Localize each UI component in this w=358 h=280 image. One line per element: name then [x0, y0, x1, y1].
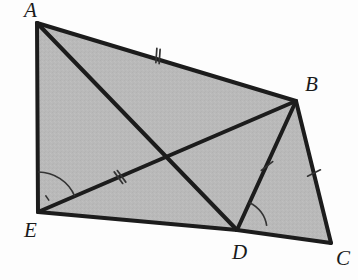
vertex-label-a: A [24, 0, 37, 21]
side-EA [37, 23, 38, 212]
vertex-label-c: C [336, 248, 350, 269]
geometry-canvas [0, 0, 358, 280]
vertex-label-b: B [305, 74, 318, 95]
vertex-label-d: D [232, 242, 247, 263]
geometry-figure: ABCDE [0, 0, 358, 280]
vertex-label-e: E [24, 220, 37, 241]
pentagon-fill [37, 23, 331, 243]
